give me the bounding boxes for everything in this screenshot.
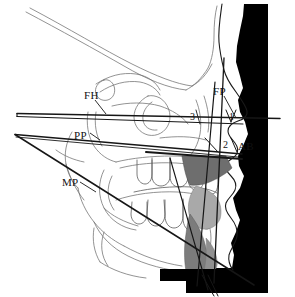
label-ab: AB [238,141,254,152]
label-pp: PP [74,130,87,141]
label-fh: FH [84,90,99,101]
label-marker-1: 1 [229,112,234,122]
line-pp [15,135,242,155]
label-mp: MP [62,177,79,188]
label-fp: FP [213,86,226,97]
cephalometric-tracing-image: FH PP MP FP AB 3 2 1 [0,0,295,297]
label-marker-3: 3 [190,112,195,122]
angle-tick-2 [205,138,218,152]
label-marker-2: 2 [223,140,228,150]
leader-pp [90,133,100,140]
base-reference-bar [160,269,232,281]
leader-fh [95,100,106,114]
